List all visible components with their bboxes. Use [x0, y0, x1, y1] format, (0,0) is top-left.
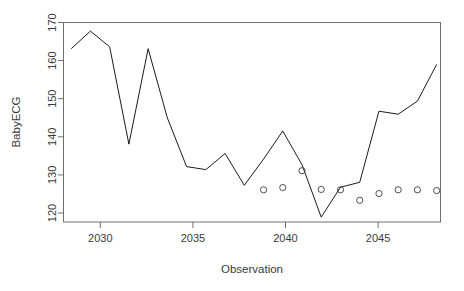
- data-point-marker: [376, 190, 382, 196]
- y-tick-label-120: 120: [46, 204, 58, 222]
- data-line: [71, 31, 436, 217]
- y-axis-ticks: [58, 23, 64, 214]
- data-point-marker: [414, 187, 420, 193]
- y-tick-label-170: 170: [46, 13, 58, 31]
- x-axis-ticks: [100, 222, 378, 228]
- y-tick-labels: 170 160 150 140 130 120: [46, 13, 58, 222]
- x-tick-label-2040: 2040: [273, 232, 297, 244]
- x-tick-label-2045: 2045: [366, 232, 390, 244]
- series-line-babyecg: [71, 31, 436, 217]
- chart-figure: 170 160 150 140 130 120 2030 2035 2040 2…: [0, 0, 464, 291]
- plot-box: [64, 23, 441, 223]
- data-point-marker: [434, 187, 440, 193]
- series-points-markers: [260, 168, 439, 204]
- y-axis-title: BabyECG: [10, 96, 22, 147]
- x-tick-label-2035: 2035: [181, 232, 205, 244]
- x-axis-title: Observation: [221, 263, 283, 275]
- y-tick-label-150: 150: [46, 90, 58, 108]
- y-tick-label-160: 160: [46, 51, 58, 69]
- data-point-marker: [395, 187, 401, 193]
- x-tick-labels: 2030 2035 2040 2045: [88, 232, 390, 244]
- y-tick-label-130: 130: [46, 166, 58, 184]
- data-point-marker: [357, 197, 363, 203]
- data-point-marker: [280, 184, 286, 190]
- data-point-marker: [318, 186, 324, 192]
- data-point-marker: [260, 187, 266, 193]
- y-tick-label-140: 140: [46, 128, 58, 146]
- plot-canvas: 170 160 150 140 130 120 2030 2035 2040 2…: [0, 0, 464, 291]
- x-tick-label-2030: 2030: [88, 232, 112, 244]
